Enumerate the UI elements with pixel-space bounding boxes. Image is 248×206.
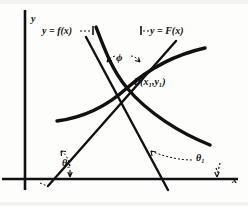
x-axis-label: x [232, 175, 237, 185]
theta1-arrow-axis [216, 163, 220, 173]
angle-label-theta2: θ₂ [62, 158, 71, 168]
tangent-left-dashed-tail [40, 183, 47, 186]
angle-label-phi: ϕ [116, 52, 122, 63]
curve-label-f-of-x: y = f(x) [42, 26, 72, 36]
theta1-arrow-left [151, 151, 156, 156]
curve-label-F-of-x: y = F(x) [150, 26, 183, 36]
theta1-arrowhead-axis [215, 172, 219, 177]
angle-label-theta1: θ₁ [196, 153, 205, 163]
theta1-arc [151, 151, 192, 160]
figure-canvas: y = f(x) y = F(x) P(x₁,y₁) ϕ θ₂ θ₁ y x [0, 0, 248, 206]
curve-f-of-x [57, 48, 205, 121]
diagram-svg [0, 0, 248, 206]
theta2-arrow-lower [68, 170, 72, 177]
y-axis-label: y [31, 14, 35, 24]
point-label-P: P(x₁,y₁) [134, 77, 166, 87]
